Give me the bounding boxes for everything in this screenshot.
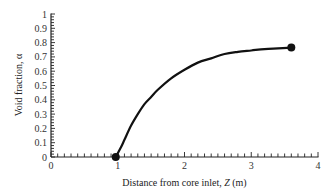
x-axis-title-prefix: Distance from core inlet, <box>122 177 224 188</box>
y-tick-label: 0.8 <box>35 37 48 48</box>
x-tick-label: 3 <box>249 160 254 171</box>
y-tick-label: 0.7 <box>35 51 48 62</box>
x-axis-tick-labels: 01234 <box>49 160 321 171</box>
y-axis-title: Void fraction, α <box>13 53 24 116</box>
x-axis-title: Distance from core inlet, Z (m) <box>122 177 246 189</box>
void-fraction-curve <box>116 48 292 157</box>
y-tick-label: 0.3 <box>35 109 48 120</box>
y-axis-tick-labels: 00.10.20.30.40.50.60.70.80.91 <box>35 9 48 163</box>
y-tick-label: 1 <box>42 9 47 20</box>
x-tick-label: 0 <box>49 160 54 171</box>
x-axis-title-suffix: (m) <box>230 177 247 189</box>
y-tick-label: 0 <box>42 152 47 163</box>
y-tick-label: 0.2 <box>35 123 48 134</box>
data-point-marker <box>112 153 120 161</box>
void-fraction-chart: 00.10.20.30.40.50.60.70.80.91 01234 Dist… <box>0 0 333 196</box>
x-tick-label: 1 <box>115 160 120 171</box>
y-tick-label: 0.6 <box>35 66 48 77</box>
y-tick-label: 0.4 <box>35 94 48 105</box>
y-tick-label: 0.5 <box>35 80 48 91</box>
x-tick-label: 2 <box>182 160 187 171</box>
data-point-marker <box>287 44 295 52</box>
y-tick-label: 0.1 <box>35 137 48 148</box>
y-tick-label: 0.9 <box>35 23 48 34</box>
x-axis-ticks <box>51 152 318 157</box>
x-tick-label: 4 <box>316 160 321 171</box>
